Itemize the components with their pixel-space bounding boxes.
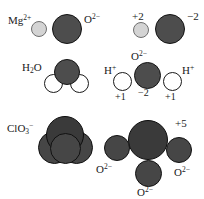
chlorate-chlorine-charge-label: +5 [175, 118, 187, 129]
mg-cation-sphere [31, 21, 47, 37]
chlorate-oxygen-right-sphere-exploded [166, 137, 192, 163]
chlorate-formula-label: ClO3− [7, 122, 33, 136]
chlorate-oxygen-bottom-charge-label: O2− [137, 186, 153, 198]
oxide-anion-charge-label: −2 [187, 11, 199, 22]
water-oxygen-sphere-exploded [134, 62, 161, 89]
chlorate-space-filling-cluster [38, 115, 98, 175]
chlorate-oxygen-left-charge-label: O2− [96, 163, 112, 175]
oxide-anion-sphere [52, 14, 82, 44]
chlorate-chlorine-sphere-exploded [128, 120, 168, 160]
chlorate-oxygen-right-charge-label: O2− [174, 166, 190, 178]
mg-cation-formula-label: Mg2+ [8, 14, 31, 26]
water-hydrogen-right-charge-label: +1 [165, 92, 176, 102]
water-hydrogen-right-sphere-exploded [163, 72, 182, 91]
water-formula-label: H2O [22, 62, 42, 75]
water-hydrogen-right-formula-label: H+ [182, 64, 194, 76]
chemistry-figure: Mg2+ O2− +2 −2 H2O O2− H+ H+ +1 −2 +1 Cl… [0, 0, 204, 199]
oxide-anion-sphere-exploded [155, 14, 185, 44]
water-hydrogen-left-sphere-exploded [113, 72, 132, 91]
water-oxygen-formula-label: O2− [131, 50, 147, 62]
water-hydrogen-left-charge-label: +1 [115, 92, 126, 102]
mg-cation-charge-label: +2 [132, 11, 144, 22]
water-oxygen-charge-label: −2 [138, 88, 149, 98]
water-oxygen-sphere [54, 59, 80, 85]
mg-cation-sphere-exploded [133, 22, 149, 38]
chlorate-oxygen-front-sphere [50, 133, 81, 164]
chlorate-oxygen-left-sphere-exploded [104, 135, 130, 161]
chlorate-oxygen-bottom-sphere-exploded [135, 160, 162, 187]
water-hydrogen-left-formula-label: H+ [104, 64, 116, 76]
oxide-anion-formula-label: O2− [84, 13, 100, 25]
